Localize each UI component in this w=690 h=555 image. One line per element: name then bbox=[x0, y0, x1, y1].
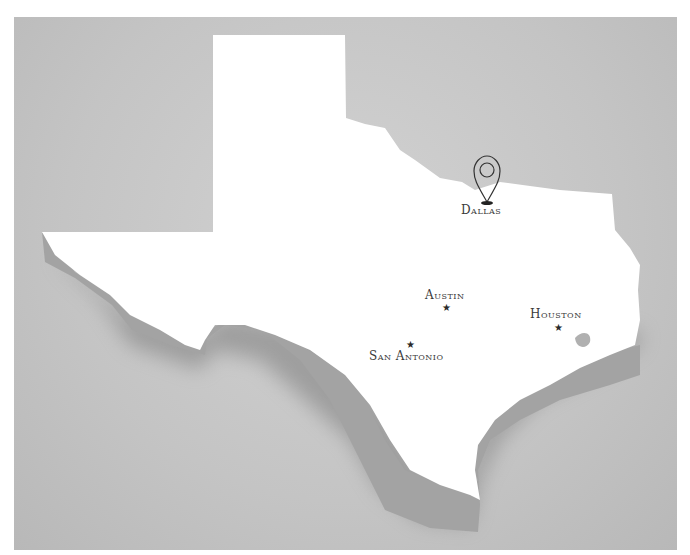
city-label-san-antonio: San Antonio bbox=[369, 349, 444, 363]
star-icon: ★ bbox=[442, 303, 451, 313]
star-icon: ★ bbox=[554, 323, 563, 333]
city-label-dallas: Dallas bbox=[461, 203, 501, 217]
city-label-houston: Houston bbox=[530, 307, 582, 321]
city-label-austin: Austin bbox=[425, 288, 464, 302]
texas-map bbox=[0, 0, 690, 555]
